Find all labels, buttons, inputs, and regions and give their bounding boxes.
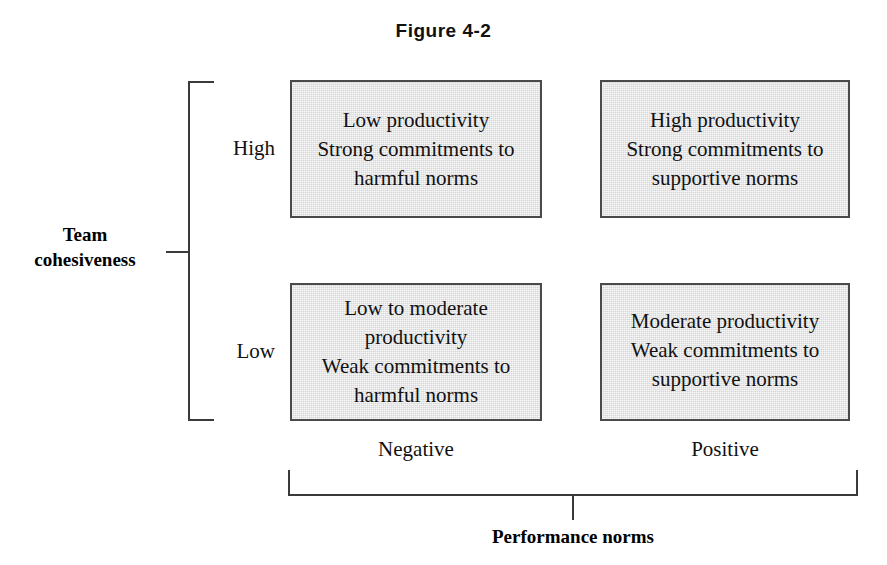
horizontal-axis-tick-middle [572, 494, 574, 520]
quadrant-text-line: Low to moderate [344, 294, 487, 323]
quadrant-text-line: supportive norms [652, 164, 798, 193]
quadrant-box-high-positive: High productivity Strong commitments to … [600, 80, 850, 218]
vertical-axis-tick-top [188, 81, 214, 83]
quadrant-text-line: Weak commitments to [631, 336, 819, 365]
quadrant-text-line: Strong commitments to [626, 135, 823, 164]
horizontal-axis-tick-left [288, 470, 290, 496]
quadrant-box-low-positive: Moderate productivity Weak commitments t… [600, 283, 850, 421]
quadrant-text-line: Low productivity [343, 106, 489, 135]
horizontal-axis-tick-right [856, 470, 858, 496]
quadrant-text-line: productivity [365, 323, 468, 352]
figure-title: Figure 4-2 [0, 20, 887, 42]
horizontal-axis-title: Performance norms [373, 526, 773, 548]
vertical-axis-title-line-2: cohesiveness [0, 247, 170, 272]
quadrant-text-line: supportive norms [652, 365, 798, 394]
figure-container: Figure 4-2 Team cohesiveness High Low Lo… [0, 0, 887, 565]
quadrant-text-line: Strong commitments to [317, 135, 514, 164]
horizontal-axis-label-positive: Positive [625, 437, 825, 462]
vertical-axis-label-high: High [205, 136, 275, 161]
quadrant-text-line: High productivity [650, 106, 800, 135]
vertical-axis-title: Team cohesiveness [0, 222, 170, 272]
quadrant-text-line: harmful norms [354, 381, 478, 410]
quadrant-text-line: harmful norms [354, 164, 478, 193]
vertical-axis-tick-bottom [188, 419, 214, 421]
quadrant-box-low-negative: Low to moderate productivity Weak commit… [290, 283, 542, 421]
quadrant-box-high-negative: Low productivity Strong commitments to h… [290, 80, 542, 218]
quadrant-text-line: Weak commitments to [322, 352, 510, 381]
vertical-axis-label-low: Low [205, 339, 275, 364]
quadrant-text-line: Moderate productivity [631, 307, 819, 336]
vertical-axis-title-line-1: Team [0, 222, 170, 247]
horizontal-axis-label-negative: Negative [316, 437, 516, 462]
